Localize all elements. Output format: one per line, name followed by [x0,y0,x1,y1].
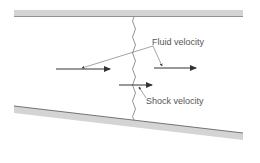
top-wall [14,10,243,17]
fluid-velocity-label: Fluid velocity [152,37,204,47]
bottom-wall [14,106,243,140]
fluid-velocity-leaders [82,46,162,68]
shock-diagram [0,0,260,163]
shock-velocity-label: Shock velocity [146,96,204,106]
shock-wave [133,17,136,120]
shock-velocity-leader [139,87,146,98]
